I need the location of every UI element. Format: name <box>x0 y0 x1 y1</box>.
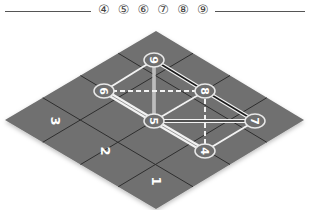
node-label-4: 4 <box>198 147 211 155</box>
node-label-7: 7 <box>248 117 261 125</box>
node-6: 6 <box>94 84 114 98</box>
node-label-5: 5 <box>147 117 160 125</box>
node-4: 4 <box>195 144 215 158</box>
cell-label-3: 3 <box>48 116 63 125</box>
node-label-6: 6 <box>97 87 110 95</box>
node-9: 9 <box>144 53 164 67</box>
node-8: 8 <box>195 84 215 98</box>
node-5: 5 <box>144 114 164 128</box>
cell-label-2: 2 <box>98 146 113 155</box>
node-label-9: 9 <box>147 56 160 64</box>
isometric-board: 3 2 1 9 6 8 <box>0 0 310 210</box>
cell-label-1: 1 <box>149 176 164 185</box>
node-7: 7 <box>245 114 265 128</box>
node-label-8: 8 <box>198 87 211 95</box>
